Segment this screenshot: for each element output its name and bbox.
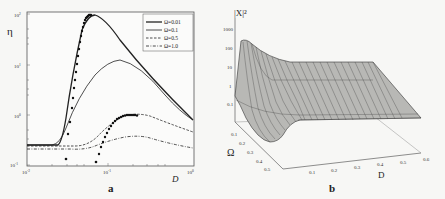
svg-text:0.5: 0.5 [400,160,407,165]
back-edge [375,117,421,153]
panel-label-b: b [329,182,335,194]
legend-item: Ω=0.01 [164,19,181,25]
svg-text:1000: 1000 [223,27,234,32]
d-axis-label: D [378,170,385,180]
legend: Ω=0.01 Ω=0.1 Ω=0.5 Ω=1.0 [143,14,193,51]
svg-text:0.6: 0.6 [423,157,430,162]
z-axis-label: |X|² [234,8,247,18]
panel-label-a: a [108,182,114,194]
panel-b: 1000 100 10 1 0.1 |X|² 0.1 0.2 0.3 0.4 0… [223,8,430,194]
svg-text:1: 1 [229,84,232,89]
svg-text:0.2: 0.2 [239,141,246,146]
surface [235,40,421,142]
svg-text:0.3: 0.3 [247,150,254,155]
svg-text:0.1: 0.1 [309,170,316,175]
svg-text:100: 100 [225,46,233,51]
svg-text:0.4: 0.4 [377,162,384,167]
svg-text:10: 10 [227,65,233,70]
svg-text:0.1: 0.1 [231,132,238,137]
y-axis-label: η [7,25,13,37]
ytick-label: 101 [14,63,21,69]
xtick-label: 10-2 [22,169,30,175]
legend-item: Ω=0.1 [164,27,178,33]
z-ticks: 1000 100 10 1 0.1 [223,27,234,107]
xtick-label: 10-1 [103,169,111,175]
legend-item: Ω=0.5 [164,35,178,41]
svg-text:0.4: 0.4 [256,159,263,164]
ytick-label: 100 [14,113,21,119]
ytick-label: 10-1 [10,162,18,168]
svg-text:0.3: 0.3 [354,165,361,170]
svg-text:0.2: 0.2 [331,168,338,173]
ytick-label: 102 [14,12,21,18]
d-ticks: 0.1 0.2 0.3 0.4 0.5 0.6 [309,157,430,175]
figure: 102 101 100 10-1 10-2 10-1 100 η D a [0,0,445,199]
xtick-label: 100 [187,169,194,175]
svg-text:0.1: 0.1 [227,102,234,107]
omega-axis-label: Ω [227,147,234,158]
x-axis-label: D [171,174,179,184]
svg-text:0.5: 0.5 [264,167,271,172]
legend-item: Ω=1.0 [164,43,178,49]
panel-a: 102 101 100 10-1 10-2 10-1 100 η D a [7,12,194,194]
